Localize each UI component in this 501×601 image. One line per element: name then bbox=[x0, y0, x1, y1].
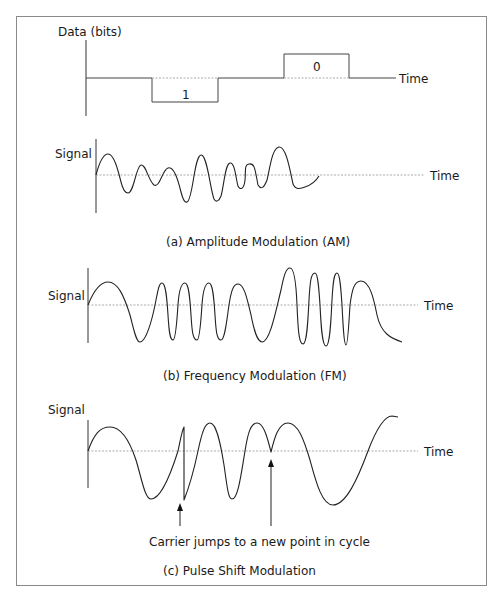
data-bits-time-label: Time bbox=[398, 72, 428, 86]
psm-caption: (c) Pulse Shift Modulation bbox=[163, 564, 316, 578]
bit-label-high: 0 bbox=[313, 60, 321, 74]
jump-arrow-2-head-icon bbox=[268, 459, 274, 467]
data-bits-axis-label: Data (bits) bbox=[58, 25, 122, 39]
am-panel: Signal Time (a) Amplitude Modulation (AM… bbox=[55, 139, 459, 249]
psm-time-label: Time bbox=[423, 445, 453, 459]
fm-panel: Signal Time (b) Frequency Modulation (FM… bbox=[48, 268, 453, 383]
psm-annotation: Carrier jumps to a new point in cycle bbox=[149, 535, 370, 549]
modulation-diagram: Data (bits) 1 0 Time Signal Time (a) Amp… bbox=[0, 0, 501, 601]
am-caption: (a) Amplitude Modulation (AM) bbox=[166, 235, 350, 249]
data-bits-panel: Data (bits) 1 0 Time bbox=[58, 25, 428, 116]
psm-signal-label: Signal bbox=[48, 403, 85, 417]
fm-signal-label: Signal bbox=[48, 289, 85, 303]
fm-caption: (b) Frequency Modulation (FM) bbox=[163, 369, 347, 383]
fm-time-label: Time bbox=[423, 299, 453, 313]
am-time-label: Time bbox=[429, 169, 459, 183]
psm-panel: Signal Time Carrier jumps to a new point… bbox=[48, 403, 453, 578]
jump-arrow-1-head-icon bbox=[177, 503, 183, 511]
bit-label-low: 1 bbox=[182, 88, 190, 102]
fm-waveform bbox=[88, 268, 402, 346]
data-bits-square-wave bbox=[86, 54, 396, 102]
am-signal-label: Signal bbox=[55, 147, 92, 161]
psm-waveform bbox=[88, 416, 398, 505]
